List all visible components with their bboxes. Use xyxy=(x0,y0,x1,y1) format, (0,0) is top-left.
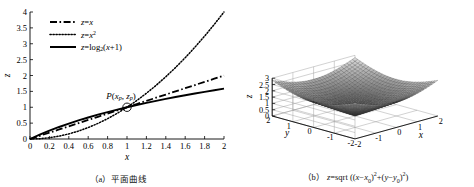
caption-a-tag: （a） xyxy=(90,174,112,184)
x-tick-label: 1.2 xyxy=(141,141,152,151)
y-tick-label: 0 xyxy=(308,127,312,136)
y-tick-label: 2 xyxy=(23,71,27,81)
legend-label-2: z=x2 xyxy=(80,30,96,40)
x-tick-label: 1.4 xyxy=(160,141,171,151)
x-tick-label: 0.4 xyxy=(63,141,74,151)
y-tick-label: 3 xyxy=(23,39,27,49)
x-tick-label: 1.8 xyxy=(199,141,210,151)
x-tick-label: 0.2 xyxy=(44,141,55,151)
y-tick-label: -2 xyxy=(348,139,355,148)
plane-curve-chart: 00.511.522.533.5400.20.40.60.811.21.41.6… xyxy=(0,0,237,160)
caption-a-text: 平面曲线 xyxy=(111,174,147,184)
x-tick-label: 0.8 xyxy=(102,141,113,151)
x-tick-label: 0 xyxy=(28,141,32,151)
y-axis-label: y xyxy=(284,128,290,138)
x-tick-label: -2 xyxy=(355,140,362,149)
figure-container: 00.511.522.533.5400.20.40.60.811.21.41.6… xyxy=(0,0,474,187)
surface-scene: 00.511.522.53210-1-2-2-1012yxz xyxy=(244,55,443,149)
x-axis-label: x xyxy=(418,130,424,140)
curve-2 xyxy=(30,12,224,139)
surface-mesh xyxy=(272,57,438,116)
panel-b-surface: 00.511.522.53210-1-2-2-1012yxz （b） z=sqr… xyxy=(237,0,474,187)
y-tick-label: -1 xyxy=(327,133,334,142)
point-p-label: P(xp, zp) xyxy=(105,91,136,101)
caption-b-text: z=sqrt ((x−x0)2+(y−y0)2) xyxy=(327,172,409,182)
y-tick-label: 3.5 xyxy=(16,23,27,33)
caption-panel-b: （b） z=sqrt ((x−x0)2+(y−y0)2) xyxy=(237,170,474,184)
y-tick-label: 1 xyxy=(23,102,27,112)
z-axis-label: z xyxy=(244,94,254,99)
x-tick-label: 2 xyxy=(222,141,226,151)
y-axis-label: z xyxy=(2,73,12,78)
x-tick-label: 2 xyxy=(439,117,443,126)
x-tick-label: 1 xyxy=(125,141,129,151)
legend-label-3: z=log2(x+1) xyxy=(80,42,122,52)
y-tick-label: 0 xyxy=(23,134,27,144)
x-tick-label: 1.6 xyxy=(180,141,191,151)
y-tick-label: 2.5 xyxy=(16,55,27,65)
x-tick-label: 0.6 xyxy=(83,141,94,151)
y-tick-label: 4 xyxy=(23,7,28,17)
surface-chart: 00.511.522.53210-1-2-2-1012yxz xyxy=(237,0,474,160)
x-tick-label: -1 xyxy=(375,134,382,143)
caption-b-tag: （b） xyxy=(303,172,325,182)
panel-a-plane-curves: 00.511.522.533.5400.20.40.60.811.21.41.6… xyxy=(0,0,237,187)
caption-panel-a: （a）平面曲线 xyxy=(0,172,237,184)
y-tick-label: 2 xyxy=(266,116,270,125)
x-tick-label: 0 xyxy=(397,128,401,137)
y-tick-label: 1.5 xyxy=(16,86,27,96)
z-tick-label: 3 xyxy=(265,74,269,83)
legend-label-1: z=x xyxy=(80,17,93,27)
x-axis-label: x xyxy=(124,152,130,160)
y-tick-label: 0.5 xyxy=(16,118,27,128)
